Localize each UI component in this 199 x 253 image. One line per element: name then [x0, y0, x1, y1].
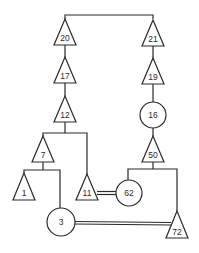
node-label: 7	[41, 150, 46, 160]
node-label: 20	[60, 33, 70, 43]
node-label: 3	[59, 217, 64, 227]
node-16: 16	[140, 102, 166, 128]
marriage-line-3-72-b	[75, 224, 171, 225]
node-label: 21	[148, 34, 158, 44]
node-label: 62	[124, 188, 134, 198]
node-17: 17	[54, 57, 76, 83]
node-3: 3	[47, 208, 75, 236]
node-20: 20	[54, 19, 76, 45]
node-label: 72	[172, 227, 182, 237]
node-11: 11	[76, 174, 98, 200]
node-label: 12	[60, 110, 70, 120]
node-12: 12	[54, 96, 76, 122]
pedigree-diagram: 20 21 17 19 12 16 7 50 1 11 62 3	[0, 0, 199, 253]
node-label: 16	[148, 110, 158, 120]
node-50: 50	[142, 136, 164, 162]
marriage-line-3-72-a	[75, 222, 171, 223]
node-19: 19	[142, 58, 164, 84]
node-label: 1	[22, 188, 27, 198]
node-21: 21	[142, 20, 164, 46]
node-label: 50	[148, 150, 158, 160]
node-label: 11	[83, 188, 92, 198]
node-7: 7	[32, 136, 54, 162]
node-1: 1	[13, 173, 35, 200]
node-62: 62	[116, 180, 142, 206]
sibling-line-20-21	[65, 15, 153, 19]
node-label: 19	[148, 72, 158, 82]
node-label: 17	[60, 71, 70, 81]
